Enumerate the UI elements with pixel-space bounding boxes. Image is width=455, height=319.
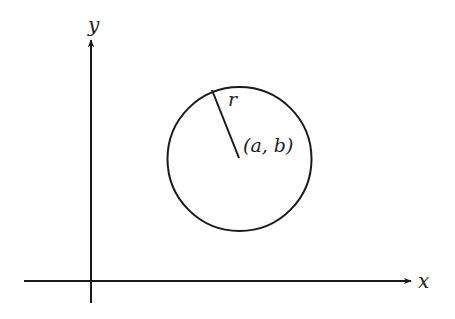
x-axis-label: x: [418, 269, 429, 293]
center-label: (a, b): [243, 134, 293, 156]
circle-diagram: y x r (a, b): [0, 0, 455, 319]
circle: [168, 87, 312, 231]
radius-label: r: [228, 88, 239, 110]
y-axis-label: y: [87, 13, 100, 37]
